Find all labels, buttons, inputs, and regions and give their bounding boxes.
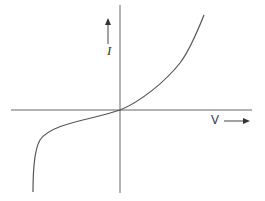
x-axis-label: V bbox=[211, 113, 219, 127]
v-arrow-icon bbox=[224, 118, 250, 124]
i-arrow-icon bbox=[105, 18, 111, 44]
y-axis-label: I bbox=[107, 43, 111, 59]
iv-curve bbox=[33, 15, 204, 192]
iv-diagram bbox=[0, 0, 265, 201]
